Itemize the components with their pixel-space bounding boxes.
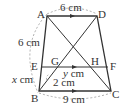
measure-bc: 9 cm	[63, 93, 85, 105]
label-f: F	[110, 60, 116, 72]
label-a: A	[37, 8, 45, 20]
measure-ae: 6 cm	[18, 36, 40, 48]
label-h: H	[91, 55, 99, 67]
label-d: D	[98, 8, 106, 20]
trapezoid-diagram: A D B C E F G H 6 cm 6 cm x cm y cm 2 cm…	[0, 0, 126, 112]
label-e: E	[31, 60, 38, 72]
label-c: C	[112, 88, 119, 100]
measure-eb: x cm	[11, 73, 34, 85]
trapezoid-abcd	[39, 16, 111, 91]
label-g: G	[51, 55, 59, 67]
label-b: B	[31, 92, 38, 104]
measure-bg: 2 cm	[53, 76, 75, 88]
measure-ad: 6 cm	[60, 1, 82, 13]
parallel-arrow-ad	[70, 14, 75, 18]
